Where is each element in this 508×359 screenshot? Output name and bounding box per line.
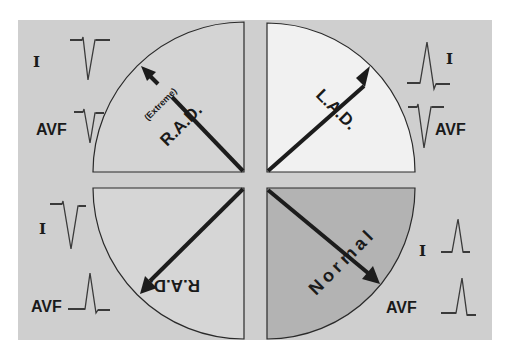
lead-avf-label: AVF (386, 299, 417, 316)
rad-label: R.A.D. (149, 276, 200, 295)
lead-avf-label: AVF (36, 121, 67, 138)
lead-i-label: I (419, 242, 426, 260)
lead-i-label: I (446, 50, 453, 68)
cardiac-axis-diagram: R.A.D. (Extreme) I AVF L.A.D. I AVF R.A.… (0, 0, 508, 359)
lead-i-label: I (39, 220, 46, 238)
lead-i-label: I (33, 53, 40, 71)
lead-avf-label: AVF (31, 298, 62, 315)
background-panel (18, 20, 492, 340)
lead-avf-label: AVF (435, 121, 466, 138)
